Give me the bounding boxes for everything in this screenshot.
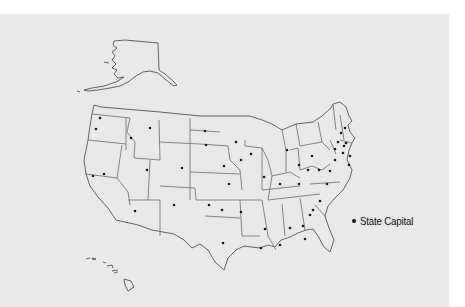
map-legend: State Capital [352, 215, 420, 227]
hawaii-outline [86, 258, 134, 291]
alaska-outline [77, 40, 177, 92]
contiguous-us [84, 102, 355, 270]
state-capital-dot-icon [352, 219, 356, 223]
us-map [0, 0, 465, 307]
legend-label: State Capital [360, 215, 413, 227]
